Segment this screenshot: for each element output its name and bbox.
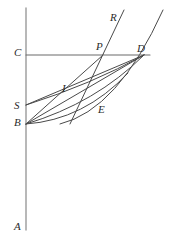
point-label-p: P	[96, 41, 103, 52]
point-label-c: C	[14, 47, 21, 58]
stroke-curve-through-D-rising	[60, 10, 163, 124]
point-label-i: I	[62, 83, 66, 94]
point-label-b: B	[14, 117, 21, 128]
stroke-chord-S-D	[26, 55, 144, 105]
point-label-r: R	[110, 12, 117, 23]
point-label-s: S	[14, 100, 20, 111]
point-label-a: A	[14, 221, 21, 232]
figure-canvas: RCPDSIBEA	[0, 0, 180, 251]
diagram-svg	[0, 0, 180, 251]
point-label-d: D	[137, 43, 145, 54]
point-label-e: E	[98, 104, 105, 115]
